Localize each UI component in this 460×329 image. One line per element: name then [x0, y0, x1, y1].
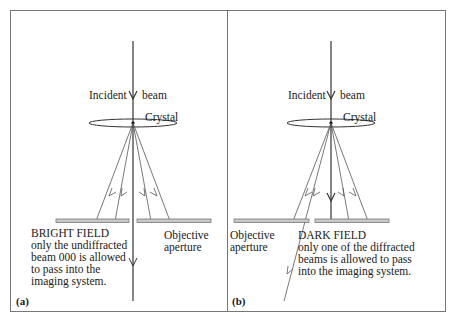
beam-label: beam — [142, 89, 167, 102]
incident-label: Incident — [89, 89, 127, 102]
mode-desc-line-1: only the undiffracted — [31, 239, 127, 252]
mode-desc-line-2: beams is allowed to pass — [298, 253, 412, 266]
mode-title: DARK FIELD — [298, 229, 366, 242]
panel-bright-field: Incident beam Crystal BRIGHT FIELD only … — [11, 11, 228, 311]
beam-label: beam — [340, 89, 365, 102]
mode-desc-line-2: beam 000 is allowed — [31, 251, 126, 264]
aperture-label-line-1: Objective — [230, 229, 275, 242]
aperture-label-line-2: aperture — [164, 241, 202, 254]
diffraction-figure: Incident beam Crystal BRIGHT FIELD only … — [10, 10, 446, 312]
crystal-label: Crystal — [145, 111, 178, 124]
crystal-label: Crystal — [343, 111, 376, 124]
panel-tag-a: (a) — [16, 295, 29, 307]
mode-desc-line-4: imaging system. — [31, 275, 106, 288]
panel-dark-field: Incident beam Crystal Objective aperture… — [228, 11, 447, 311]
mode-desc-line-3: to pass into the — [31, 263, 100, 276]
incident-label: Incident — [288, 89, 326, 102]
mode-title: BRIGHT FIELD — [31, 227, 109, 240]
panel-tag-b: (b) — [232, 295, 245, 307]
aperture-label-line-2: aperture — [230, 241, 268, 254]
aperture-label-line-1: Objective — [164, 229, 209, 242]
mode-desc-line-1: only one of the diffracted — [298, 241, 415, 254]
mode-desc-line-3: into the imaging system. — [298, 265, 411, 278]
